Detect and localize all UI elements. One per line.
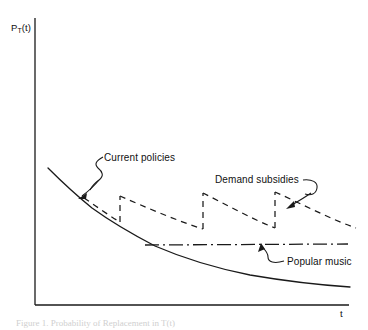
leader-current-policies bbox=[82, 157, 103, 196]
leader-demand-subsidies-hook bbox=[303, 180, 317, 195]
y-axis-label-subscript: T bbox=[17, 27, 21, 34]
annotation-demand-subsidies: Demand subsidies bbox=[215, 174, 299, 185]
y-axis-label-suffix: (t) bbox=[22, 22, 31, 33]
leader-popular-music-hook bbox=[262, 247, 284, 262]
demand-decay-3 bbox=[275, 192, 356, 228]
annotation-popular-music: Popular music bbox=[287, 256, 352, 267]
figure-caption: Figure 1. Probability of Replacement in … bbox=[16, 318, 356, 330]
leader-popular-music bbox=[262, 247, 284, 262]
figure-canvas bbox=[0, 0, 368, 330]
demand-decay-1 bbox=[120, 196, 203, 229]
leader-current-policies-squiggle bbox=[90, 157, 103, 190]
series-demand-subsidies bbox=[84, 192, 356, 229]
y-axis-label: PT(t) bbox=[11, 22, 31, 33]
series-popular-music bbox=[145, 244, 348, 245]
leader-demand-subsidies-arrowhead bbox=[286, 201, 295, 209]
annotation-current-policies: Current policies bbox=[104, 152, 175, 163]
demand-decay-0 bbox=[84, 198, 120, 222]
demand-decay-2 bbox=[203, 193, 275, 228]
leader-current-policies-arrowhead bbox=[78, 193, 87, 199]
